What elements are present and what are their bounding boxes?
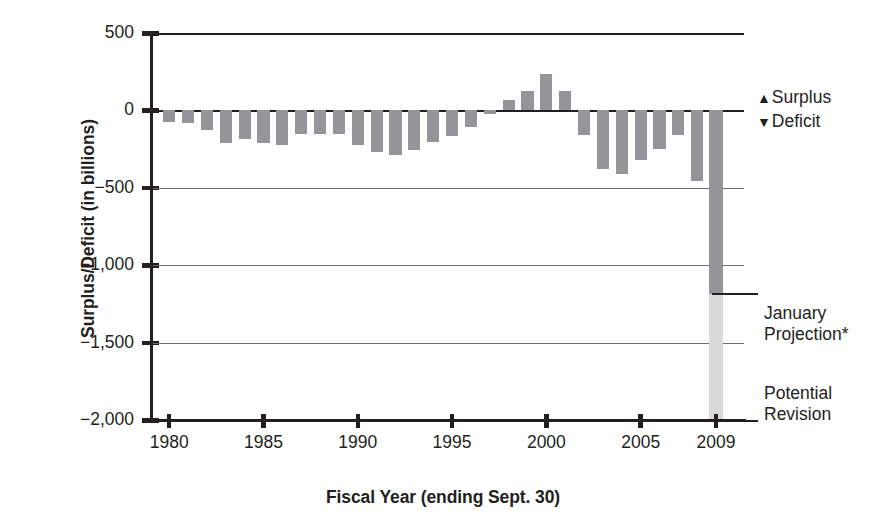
bar-1993 xyxy=(408,110,420,149)
chart-figure: Surplus/Deficit (in billions) 5000−500−1… xyxy=(0,0,886,518)
bar-1999 xyxy=(521,91,533,111)
bar-2005 xyxy=(635,110,647,159)
bar-1983 xyxy=(220,110,232,142)
bar-2009 xyxy=(709,110,724,294)
y-tick-label--1000: −1,000 xyxy=(0,256,134,274)
bar-1988 xyxy=(314,110,326,134)
bar-1980 xyxy=(163,110,175,121)
x-tick-label-1995: 1995 xyxy=(433,432,472,452)
bar-1994 xyxy=(427,110,439,141)
legend-label-deficit: Deficit xyxy=(772,110,821,133)
potential-revision-line2: Revision xyxy=(764,404,832,425)
chart-legend: ▲ Surplus ▼ Deficit xyxy=(757,86,831,134)
y-tick-label--500: −500 xyxy=(0,179,134,197)
bar-2006 xyxy=(653,110,665,148)
gridline--1000 xyxy=(150,265,744,266)
bar-1981 xyxy=(182,110,194,122)
bar-2009-potential-revision xyxy=(709,294,724,420)
bar-1995 xyxy=(446,110,458,135)
bar-2000 xyxy=(540,74,552,111)
x-tick-1995 xyxy=(450,414,455,428)
plot-area xyxy=(150,33,744,420)
bar-1991 xyxy=(371,110,383,152)
bar-1985 xyxy=(257,110,269,143)
y-tick-label-0: 0 xyxy=(0,101,134,119)
bar-1987 xyxy=(295,110,307,133)
bar-1990 xyxy=(352,110,364,144)
bar-2002 xyxy=(578,110,590,134)
bar-1986 xyxy=(276,110,288,144)
x-tick-label-2009: 2009 xyxy=(697,432,736,452)
x-tick-label-1980: 1980 xyxy=(150,432,189,452)
gridline--1500 xyxy=(150,343,744,344)
january-projection-callout: January Projection* xyxy=(764,303,849,345)
bar-1982 xyxy=(201,110,213,130)
triangle-down-icon: ▼ xyxy=(757,111,771,134)
x-tick-label-2000: 2000 xyxy=(527,432,566,452)
gridline--500 xyxy=(150,188,744,189)
january-projection-line2: Projection* xyxy=(764,324,849,345)
y-tick-label-500: 500 xyxy=(0,24,134,42)
bar-2003 xyxy=(597,110,609,169)
x-tick-2005 xyxy=(638,414,643,428)
potential-revision-leader-line xyxy=(712,420,758,422)
bar-1989 xyxy=(333,110,345,134)
x-tick-1985 xyxy=(261,414,266,428)
legend-item-deficit: ▼ Deficit xyxy=(757,110,831,134)
potential-revision-line1: Potential xyxy=(764,383,832,404)
bar-2007 xyxy=(672,110,684,135)
y-axis-line xyxy=(150,31,153,422)
bar-2001 xyxy=(559,91,571,111)
y-tick-label--2000: −2,000 xyxy=(0,411,134,429)
x-tick-2000 xyxy=(544,414,549,428)
x-axis-title: Fiscal Year (ending Sept. 30) xyxy=(0,487,886,508)
legend-label-surplus: Surplus xyxy=(772,86,831,109)
january-projection-line1: January xyxy=(764,303,849,324)
x-tick-1990 xyxy=(356,414,361,428)
bar-1984 xyxy=(239,110,251,139)
x-tick-label-1990: 1990 xyxy=(338,432,377,452)
y-tick-label--1500: −1,500 xyxy=(0,334,134,352)
gridline-500 xyxy=(150,33,744,35)
x-axis-line xyxy=(150,419,746,422)
x-tick-label-2005: 2005 xyxy=(621,432,660,452)
potential-revision-callout: Potential Revision xyxy=(764,383,832,425)
y-axis-title: Surplus/Deficit (in billions) xyxy=(78,29,99,429)
triangle-up-icon: ▲ xyxy=(757,87,771,110)
bar-1992 xyxy=(389,110,401,155)
bar-1998 xyxy=(503,100,515,111)
bar-2008 xyxy=(691,110,703,181)
bar-1997 xyxy=(484,110,496,113)
legend-item-surplus: ▲ Surplus xyxy=(757,86,831,110)
bar-2004 xyxy=(616,110,628,174)
x-tick-label-1985: 1985 xyxy=(244,432,283,452)
january-projection-leader-line xyxy=(712,293,758,295)
bar-1996 xyxy=(465,110,477,127)
x-tick-1980 xyxy=(167,414,172,428)
